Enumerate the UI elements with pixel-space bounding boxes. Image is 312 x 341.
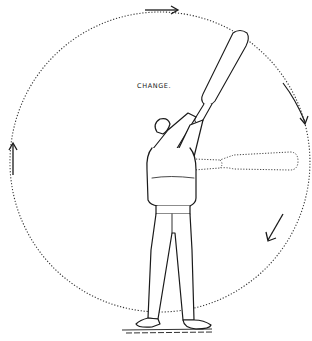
figure-caption: CHANGE.	[137, 82, 171, 90]
floor	[122, 329, 214, 333]
indian-club-exercise-illustration	[0, 0, 312, 341]
raised-club	[195, 31, 249, 124]
left-arrow-icon	[9, 143, 17, 175]
right-lower-arrow-icon	[266, 214, 283, 241]
man-figure	[136, 113, 211, 329]
top-arrow-icon	[145, 6, 178, 14]
right-upper-arrow-icon	[283, 83, 308, 124]
